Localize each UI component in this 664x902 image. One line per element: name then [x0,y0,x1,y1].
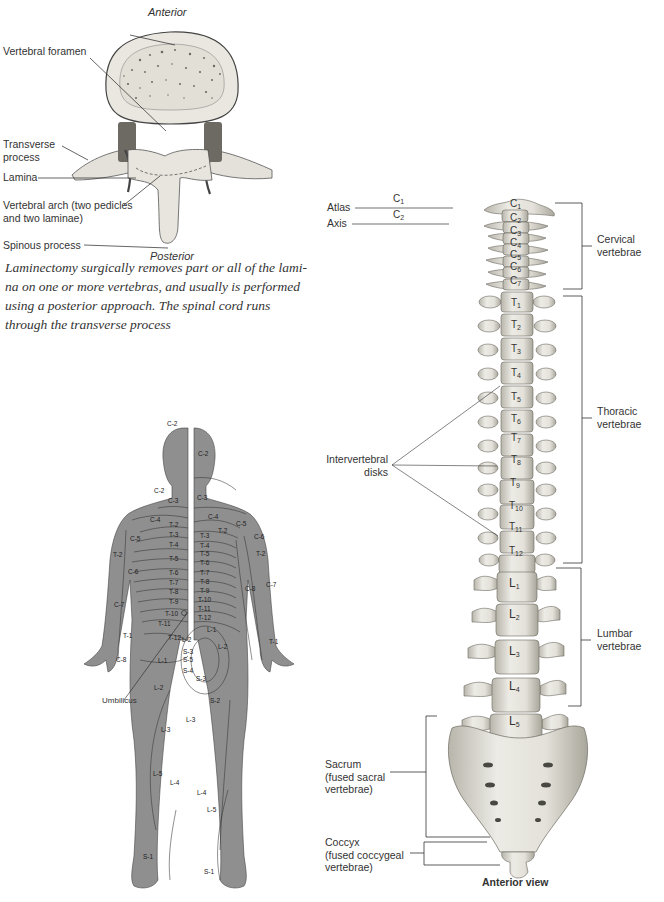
vertebra-t11: T11 [509,522,522,535]
thoracic-line2: vertebrae [597,418,641,431]
coccyx-line3: vertebrae) [325,861,404,874]
sacrum-line1: Sacrum [325,758,385,771]
atlas-label: Atlas [327,201,350,214]
cervical-line1: Cervical [597,233,641,246]
cervical-vertebrae-label: Cervical vertebrae [597,233,641,258]
vertebra-t4: T4 [511,368,521,381]
vertebra-num: 5 [517,396,521,403]
vertebra-l5: L5 [509,716,520,730]
c1-num: 1 [400,198,404,205]
vertebra-num: 1 [517,203,521,210]
vertebra-num: 5 [517,254,521,261]
vertebra-num: 2 [517,324,521,331]
vertebra-num: 12 [515,550,523,557]
vertebra-t9: T9 [510,478,520,491]
vertebra-num: 4 [517,242,521,249]
cervical-line2: vertebrae [597,246,641,259]
vertebra-num: 2 [517,217,521,224]
vertebra-letter: L [509,644,516,658]
lumbar-line2: vertebrae [597,640,641,653]
vertebra-letter: L [509,607,516,621]
vertebra-num: 1 [516,583,520,590]
c2-num: 2 [400,214,404,221]
lumbar-line1: Lumbar [597,627,641,640]
vertebra-letter: L [509,576,516,590]
vertebra-t6: T6 [511,414,521,427]
vertebra-num: 2 [516,614,520,621]
thoracic-line1: Thoracic [597,405,641,418]
sacrum-line2: (fused sacral [325,771,385,784]
vertebra-num: 6 [517,266,521,273]
intervertebral-line2: disks [325,466,388,479]
intervertebral-line1: Intervertebral [325,453,388,466]
vertebra-num: 8 [517,459,521,466]
lumbar-vertebrae-label: Lumbar vertebrae [597,627,641,652]
vertebra-t1: T1 [511,298,521,311]
c1-label: C1 [393,194,404,207]
coccyx-label: Coccyx (fused coccygeal vertebrae) [325,836,404,874]
coccyx-line2: (fused coccygeal [325,849,404,862]
vertebra-c7: C7 [510,276,521,289]
vertebra-letter: L [509,679,516,693]
vertebra-c1: C1 [510,199,521,212]
vertebra-t10: T10 [509,501,523,514]
vertebra-num: 4 [516,686,520,693]
vertebra-num: 3 [516,651,520,658]
vertebra-l4: L4 [509,681,520,695]
sacrum-label: Sacrum (fused sacral vertebrae) [325,758,385,796]
vertebra-num: 1 [517,302,521,309]
vertebra-l1: L1 [509,578,520,592]
vertebra-num: 7 [517,280,521,287]
vertebra-t3: T3 [511,344,521,357]
vertebra-l2: L2 [509,609,520,623]
vertebra-num: 5 [516,721,520,728]
vertebra-t2: T2 [511,320,521,333]
anterior-view-label: Anterior view [482,876,549,889]
vertebra-l3: L3 [509,646,520,660]
vertebra-num: 10 [515,505,523,512]
vertebra-num: 3 [517,230,521,237]
vertebra-t8: T8 [511,455,521,468]
vertebra-letter: L [509,714,516,728]
vertebra-num: 6 [517,418,521,425]
vertebra-t12: T12 [509,546,523,559]
vertebra-num: 3 [517,348,521,355]
vertebra-c6: C6 [510,262,521,275]
coccyx-line1: Coccyx [325,836,404,849]
sacrum-line3: vertebrae) [325,783,385,796]
c2-label: C2 [393,210,404,223]
vertebra-num: 9 [516,482,520,489]
vertebra-num: 11 [515,526,522,533]
vertebra-num: 4 [517,372,521,379]
intervertebral-disks-label: Intervertebral disks [325,453,388,478]
axis-label: Axis [327,217,347,230]
vertebra-t5: T5 [511,392,521,405]
vertebra-num: 7 [517,437,521,444]
thoracic-vertebrae-label: Thoracic vertebrae [597,405,641,430]
vertebra-t7: T7 [511,433,521,446]
